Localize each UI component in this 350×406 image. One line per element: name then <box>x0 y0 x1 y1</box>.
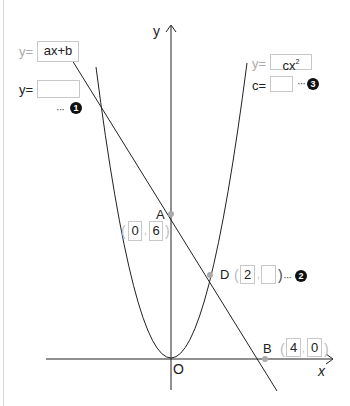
line-marker-dots: ··· <box>56 104 64 115</box>
marker-2-badge: 2 <box>295 270 307 282</box>
point-d-x-box: 2 <box>240 265 255 284</box>
point-d-paren-close: ) <box>278 268 283 282</box>
point-d-dot <box>207 272 213 278</box>
origin-label: O <box>173 362 184 376</box>
marker-3-badge: 3 <box>307 78 319 90</box>
point-a-dot <box>168 211 174 217</box>
point-b-paren-close: ) <box>324 342 329 356</box>
point-b-label: B <box>263 342 272 355</box>
point-d-paren-open: ( <box>234 268 239 282</box>
parabola-eq-base: cx <box>283 58 296 73</box>
point-a-label: A <box>156 208 165 221</box>
point-b-comma: , <box>302 344 305 354</box>
point-a-paren-close: ) <box>165 224 170 238</box>
point-b-y-box: 0 <box>307 338 322 357</box>
point-a-x-box: 0 <box>128 221 142 241</box>
point-d-y-input[interactable] <box>261 265 276 284</box>
line-eq-prefix: y= <box>19 45 33 58</box>
point-b-paren-open: ( <box>280 342 285 356</box>
line-answer-prefix: y= <box>19 83 33 96</box>
marker-1-badge: 1 <box>70 102 82 114</box>
point-a-y-box: 6 <box>149 221 163 241</box>
point-a-paren-open: ( <box>121 224 126 238</box>
line-ab <box>72 60 277 391</box>
line-answer-input[interactable] <box>37 80 80 98</box>
point-d-comma: , <box>257 270 260 280</box>
point-a-comma: , <box>144 226 147 236</box>
parabola-eq-prefix: y= <box>252 57 266 70</box>
parabola-answer-input[interactable] <box>270 76 293 92</box>
parabola-eq-exp: 2 <box>296 58 300 65</box>
parabola-marker-dots: ··· <box>297 78 305 89</box>
point-b-dot <box>262 356 268 362</box>
x-axis-label: x <box>318 364 325 378</box>
y-axis-label: y <box>153 24 160 38</box>
line-eq-box: ax+b <box>37 41 79 62</box>
point-d-label: D <box>220 268 229 281</box>
parabola-answer-prefix: c= <box>252 79 266 92</box>
parabola-eq-box: cx2 <box>270 54 312 70</box>
point-b-x-box: 4 <box>286 338 301 357</box>
point-d-marker-dots: ··· <box>283 272 291 283</box>
